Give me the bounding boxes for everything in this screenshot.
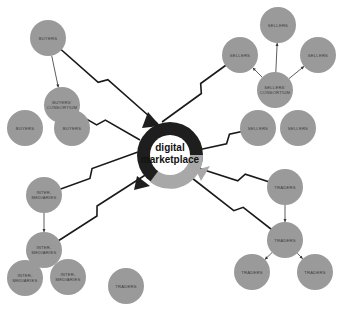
lightning-connection-i2 — [44, 172, 150, 250]
sellers-node: SELLERS — [280, 110, 316, 146]
sellers-node-label: SELLERS — [248, 126, 268, 131]
arrowhead-icon — [276, 43, 279, 46]
traders-node: TRADERS — [297, 254, 333, 290]
sellers-node: SELLERS — [260, 7, 296, 43]
intermediaries-node-label: MEDIARIES — [56, 277, 81, 282]
traders-node-label: TRADERS — [115, 284, 136, 289]
traders-node: TRADERS — [267, 169, 303, 205]
intermediaries-node: INTER-MEDIARIES — [26, 177, 62, 213]
buyers-node: BUYERS — [54, 110, 90, 146]
sellers-node-label: SELLERS — [288, 126, 308, 131]
traders-node: TRADERS — [108, 268, 144, 304]
marketplace-diagram: BUYERSBUYERS'CONSORTIUMBUYERSBUYERSSELLE… — [0, 0, 343, 312]
arrowhead-icon — [56, 84, 59, 87]
intermediaries-node: INTER-MEDIARIES — [50, 259, 86, 295]
hub-label-line2: marketplace — [141, 154, 200, 165]
intermediaries-node-label: MEDIARIES — [32, 195, 57, 200]
hub-label-line1: digital — [155, 142, 185, 153]
arrowhead-icon — [284, 219, 287, 222]
traders-node-label: TRADERS — [274, 185, 295, 190]
sellers-node: SELLERS — [222, 37, 258, 73]
arrowhead-icon — [43, 229, 46, 232]
traders-node: TRADERS — [234, 254, 270, 290]
sellers-node-label: SELLERS — [308, 53, 328, 58]
sellers-node: SELLERS — [300, 37, 336, 73]
sellers-node-label: CONSORTIUM — [260, 90, 291, 95]
sellers-node: SELLERS'CONSORTIUM — [257, 72, 293, 108]
intermediaries-node: INTER-MEDIARIES — [7, 260, 43, 296]
arrow-b1-b2 — [52, 56, 59, 88]
traders-node: TRADERS — [267, 222, 303, 258]
sellers-node: SELLERS — [240, 110, 276, 146]
traders-node-label: TRADERS — [274, 238, 295, 243]
arrow-s4-s2 — [276, 43, 277, 72]
intermediaries-node-label: MEDIARIES — [13, 278, 38, 283]
buyers-node-label: BUYERS — [16, 126, 34, 131]
buyers-node-label: CONSORTIUM — [47, 105, 78, 110]
sellers-node-label: SELLERS — [230, 53, 250, 58]
intermediaries-node-label: MEDIARIES — [32, 250, 57, 255]
buyers-node: BUYERS — [7, 110, 43, 146]
buyers-node: BUYERS — [30, 20, 66, 56]
hub-arrowhead-dark — [142, 112, 160, 128]
buyers-node-label: BUYERS — [39, 36, 57, 41]
digital-marketplace-hub: digital marketplace — [134, 112, 210, 190]
diagram-canvas: BUYERSBUYERS'CONSORTIUMBUYERSBUYERSSELLE… — [0, 0, 343, 312]
traders-node-label: TRADERS — [304, 270, 325, 275]
sellers-node-label: SELLERS — [268, 23, 288, 28]
traders-node-label: TRADERS — [241, 270, 262, 275]
buyers-node-label: BUYERS — [63, 126, 81, 131]
